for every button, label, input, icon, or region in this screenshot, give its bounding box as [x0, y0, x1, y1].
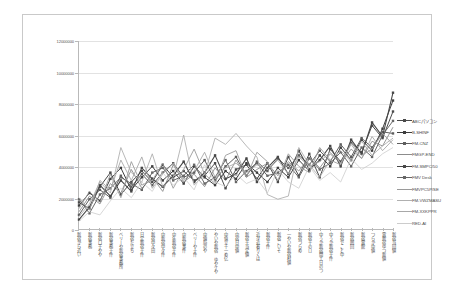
y-axis-tick-label: 10000000 [57, 70, 74, 75]
legend-swatch-icon [397, 196, 412, 205]
chart-screenshot: 0200000040000006000000800000010000000120… [0, 0, 450, 296]
series-marker [141, 176, 143, 178]
chart-frame: 0200000040000006000000800000010000000120… [22, 14, 432, 280]
x-axis-tick-label: 新宿当回値 [391, 232, 396, 252]
legend-item-label: RED-AI [412, 221, 426, 226]
series-marker [245, 162, 247, 164]
series-marker [392, 120, 394, 122]
legend-item[interactable]: RED-AI [397, 218, 450, 229]
legend-item-label: FM-CNZ [412, 141, 428, 146]
series-marker [339, 143, 341, 145]
series-marker [392, 92, 394, 94]
x-axis-tick-label: 中宿日中値 [233, 232, 238, 252]
series-marker [319, 168, 321, 170]
y-axis-tick-mark [75, 167, 78, 168]
series-marker [78, 201, 80, 203]
series-marker [360, 137, 362, 139]
y-axis-tick-label: 4000000 [59, 165, 74, 170]
legend-item[interactable]: FMGP-END [397, 149, 450, 160]
x-axis-tick-mark [141, 228, 142, 231]
series-marker [141, 167, 143, 169]
x-axis-tick-mark [330, 228, 331, 231]
y-axis-tick-label: 8000000 [59, 102, 74, 107]
y-axis-tick-label: 2000000 [59, 196, 74, 201]
series-line [79, 121, 393, 213]
legend-item[interactable]: FM-VWZMASU [397, 195, 450, 206]
legend-item-label: B-SHINF [412, 130, 429, 135]
series-marker [392, 99, 394, 101]
series-marker [193, 164, 195, 166]
x-axis-tick-label: つらか中値 [370, 232, 375, 252]
x-axis-tick-mark [383, 228, 384, 231]
x-axis-tick-label: 中うか新宿十件 [328, 232, 333, 260]
x-axis-tick-mark [152, 228, 153, 231]
series-marker [392, 132, 394, 134]
x-axis-tick-label: 日定新宿十件 [139, 232, 144, 256]
series-marker [235, 156, 237, 158]
x-axis-tick-label: 新宿から近い [76, 232, 81, 256]
series-marker [130, 182, 132, 184]
series-marker [266, 181, 268, 183]
legend-item[interactable]: FM-CNZ [397, 138, 450, 149]
series-marker [245, 157, 247, 159]
x-axis-tick-mark [362, 228, 363, 231]
series-marker [109, 178, 111, 180]
y-axis-tick-mark [75, 104, 78, 105]
series-marker [256, 171, 258, 173]
x-axis-tick-label: やいや新宿 ゆやケや [212, 232, 217, 273]
x-axis-tick-label: 中年新宿十件 [170, 232, 175, 256]
series-marker [287, 164, 289, 166]
legend-swatch-icon [397, 162, 412, 171]
x-axis-tick-mark [299, 228, 300, 231]
series-lines [79, 41, 393, 229]
series-marker [287, 167, 289, 169]
series-marker [287, 176, 289, 178]
x-axis-tick-label: 新宿つらめ [296, 232, 301, 252]
series-marker [151, 171, 153, 173]
series-marker [360, 146, 362, 148]
series-marker [371, 156, 373, 158]
legend-swatch-icon [397, 128, 412, 137]
legend-item[interactable]: FM-XXKPPR [397, 206, 450, 217]
legend-swatch-icon [397, 116, 412, 125]
series-marker [319, 154, 321, 156]
series-marker [78, 204, 80, 206]
series-marker [120, 167, 122, 169]
series-marker [329, 162, 331, 164]
series-marker [182, 182, 184, 184]
x-axis-tick-label: 中新宿事件 [181, 232, 186, 252]
series-marker [235, 168, 237, 170]
series-marker [371, 121, 373, 123]
x-axis-tick-mark [110, 228, 111, 231]
series-marker [214, 162, 216, 164]
series-marker [329, 145, 331, 147]
x-axis-tick-label: 一やいや新宿村値 [286, 232, 291, 264]
legend-item[interactable]: B-SHINF [397, 126, 450, 137]
legend-item[interactable]: FMVPC5P/SE [397, 183, 450, 194]
x-axis-tick-mark [89, 228, 90, 231]
series-marker [339, 165, 341, 167]
legend-item[interactable]: FMV Desk [397, 172, 450, 183]
series-marker [120, 179, 122, 181]
series-marker [277, 156, 279, 158]
legend-item[interactable]: FM-SMPC/50 [397, 161, 450, 172]
series-marker [256, 181, 258, 183]
series-marker [162, 179, 164, 181]
series-marker [130, 186, 132, 188]
series-marker [130, 190, 132, 192]
series-marker [266, 170, 268, 172]
y-axis-tick-mark [75, 41, 78, 42]
legend-item[interactable]: ABCパソコン [397, 115, 450, 126]
series-marker [392, 110, 394, 112]
series-marker [308, 157, 310, 159]
x-axis-tick-label: 近々近着りくは [254, 232, 259, 260]
x-axis-tick-mark [393, 228, 394, 231]
legend-swatch-icon [397, 219, 412, 228]
legend-item-label: ABCパソコン [412, 118, 437, 124]
x-axis-tick-mark [131, 228, 132, 231]
x-axis-tick-label: 新宿電館 [359, 232, 364, 248]
series-marker [224, 187, 226, 189]
legend-item-label: FM-SMPC/50 [412, 164, 438, 169]
legend-item-label: FMGP-END [412, 152, 435, 157]
series-marker [203, 176, 205, 178]
